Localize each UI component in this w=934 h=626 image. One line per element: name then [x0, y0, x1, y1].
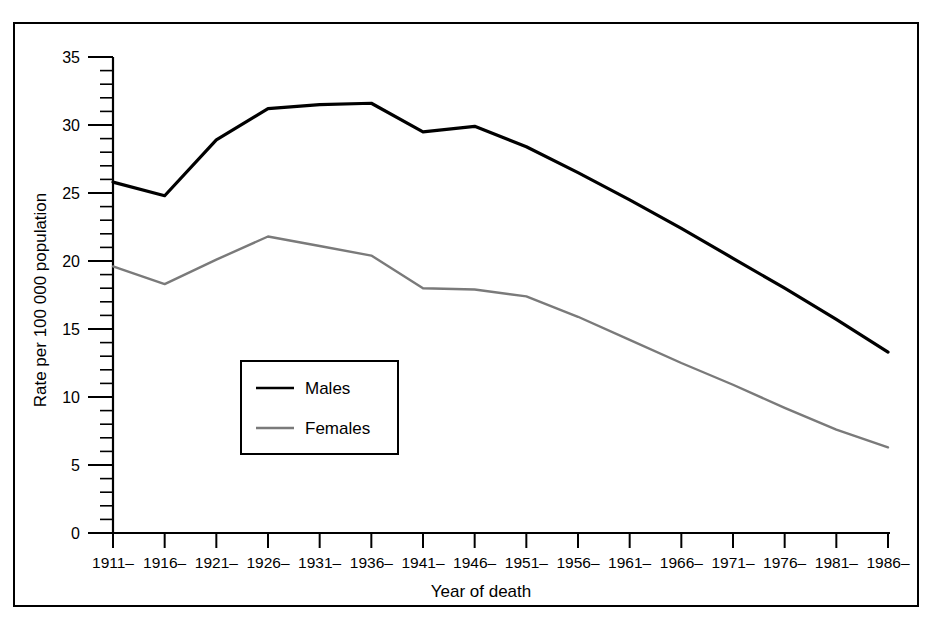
y-axis-tick-label: 15	[62, 321, 80, 338]
x-axis-tick-labels: 1911–1916–1921–1926–1931–1936–1941–1946–…	[92, 554, 910, 571]
x-axis-tick-label: 1986–	[866, 554, 909, 571]
x-axis-tick-label: 1911–	[92, 554, 134, 571]
y-axis-tick-label: 35	[62, 49, 80, 66]
x-axis-tick-label: 1976–	[763, 554, 806, 571]
legend-label-males: Males	[305, 379, 350, 398]
x-axis-tick-label: 1936–	[350, 554, 393, 571]
series-line-females	[113, 237, 888, 448]
series-line-males	[113, 103, 888, 352]
y-axis-major-ticks	[88, 57, 113, 533]
y-axis-tick-label: 25	[62, 185, 80, 202]
x-axis-tick-label: 1931–	[298, 554, 341, 571]
legend-box	[241, 361, 398, 454]
x-axis-ticks	[113, 533, 888, 548]
series-lines	[113, 103, 888, 447]
y-axis-minor-ticks	[100, 71, 113, 520]
x-axis-tick-label: 1946–	[453, 554, 496, 571]
x-axis-tick-label: 1941–	[401, 554, 444, 571]
x-axis-tick-label: 1966–	[660, 554, 703, 571]
y-axis-tick-label: 30	[62, 117, 80, 134]
x-axis-tick-label: 1981–	[815, 554, 858, 571]
legend-label-females: Females	[305, 419, 370, 438]
x-axis-title: Year of death	[431, 582, 532, 601]
y-axis-title: Rate per 100 000 population	[31, 193, 50, 408]
y-axis-tick-label: 5	[71, 457, 80, 474]
x-axis-tick-label: 1956–	[556, 554, 599, 571]
x-axis-tick-label: 1926–	[246, 554, 289, 571]
x-axis-tick-label: 1961–	[608, 554, 651, 571]
x-axis-tick-label: 1916–	[143, 554, 186, 571]
x-axis-tick-label: 1971–	[711, 554, 754, 571]
x-axis-tick-label: 1921–	[195, 554, 238, 571]
chart-legend: Males Females	[241, 361, 398, 454]
y-axis-tick-labels: 05101520253035	[62, 49, 80, 542]
y-axis-tick-label: 20	[62, 253, 80, 270]
x-axis-tick-label: 1951–	[505, 554, 548, 571]
y-axis-tick-label: 0	[71, 525, 80, 542]
line-chart: 05101520253035 1911–1916–1921–1926–1931–…	[0, 0, 934, 626]
y-axis-tick-label: 10	[62, 389, 80, 406]
